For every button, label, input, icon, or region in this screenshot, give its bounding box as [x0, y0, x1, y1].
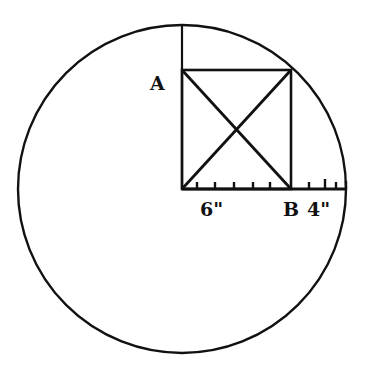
label-segment-4-inches: 4" [307, 200, 330, 219]
label-segment-6-inches: 6" [200, 200, 223, 219]
geometry-diagram [0, 0, 370, 382]
tick-marks [197, 179, 346, 189]
label-point-b: B [283, 200, 299, 219]
label-point-a: A [150, 74, 165, 93]
